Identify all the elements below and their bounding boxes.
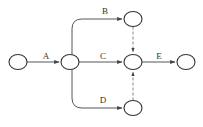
activity-labels: ABCDE [43, 6, 163, 105]
activity-label-b: B [102, 6, 108, 16]
activity-arrow-d [72, 70, 122, 109]
activity-arrow-b [72, 19, 122, 55]
activity-label-a: A [43, 51, 50, 61]
event-node-n4 [124, 55, 142, 70]
network-diagram: ABCDE [0, 0, 203, 127]
activity-label-c: C [100, 51, 106, 61]
activity-label-e: E [156, 51, 162, 61]
event-node-n1 [9, 55, 27, 70]
event-node-n2 [61, 55, 79, 70]
event-node-n5 [177, 55, 195, 70]
event-node-n6 [124, 101, 142, 116]
event-node-n3 [124, 12, 142, 27]
activity-label-d: D [100, 95, 107, 105]
